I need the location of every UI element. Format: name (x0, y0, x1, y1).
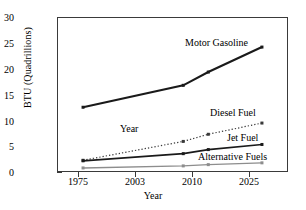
data-point-alternative-fuels-2010 (207, 163, 210, 166)
data-point-diesel-fuel-2025 (260, 122, 263, 125)
chart-figure: BTU (Quadrillions) 30 25 20 15 10 5 0 19… (0, 0, 306, 210)
data-point-diesel-fuel-2003 (182, 140, 185, 143)
series-label-diesel-fuel: Diesel Fuel (210, 108, 256, 118)
y-tick-label-5: 5 (0, 142, 14, 152)
data-point-motor-gasoline-2003 (182, 84, 185, 87)
series-label-jet-fuel: Jet Fuel (227, 133, 258, 143)
series-layer (58, 18, 287, 171)
y-tick-label-25: 25 (0, 39, 14, 49)
y-tick-label-0: 0 (0, 168, 14, 178)
y-tick-label-15: 15 (0, 91, 14, 101)
series-label-motor-gasoline: Motor Gasoline (185, 38, 248, 48)
y-tick-label-20: 20 (0, 65, 14, 75)
data-point-alternative-fuels-2003 (182, 164, 185, 167)
data-point-diesel-fuel-2010 (207, 133, 210, 136)
x-tick-label-1975: 1975 (51, 176, 105, 187)
x-tick-label-2003: 2003 (108, 176, 162, 187)
y-tick-mark-0 (57, 172, 62, 173)
series-line-motor-gasoline (83, 47, 262, 107)
x-tick-label-2025: 2025 (222, 176, 276, 187)
plot-area (57, 17, 288, 172)
series-label-alternative-fuels: Alternative Fuels (198, 152, 267, 162)
data-point-motor-gasoline-2010 (207, 71, 210, 74)
data-point-motor-gasoline-2025 (260, 46, 263, 49)
y-tick-label-30: 30 (0, 13, 14, 23)
data-point-motor-gasoline-1975 (82, 106, 85, 109)
y-axis-title: BTU (Quadrillions) (22, 3, 33, 133)
series-line-alternative-fuels (83, 163, 262, 168)
data-point-jet-fuel-1975 (82, 159, 85, 162)
x-axis-title: Year (0, 190, 306, 201)
x-tick-label-2010: 2010 (165, 176, 219, 187)
data-point-jet-fuel-2003 (182, 152, 185, 155)
data-point-alternative-fuels-1975 (82, 166, 85, 169)
annotation-year: Year (120, 124, 138, 134)
y-tick-label-10: 10 (0, 117, 14, 127)
data-point-jet-fuel-2025 (260, 143, 263, 146)
